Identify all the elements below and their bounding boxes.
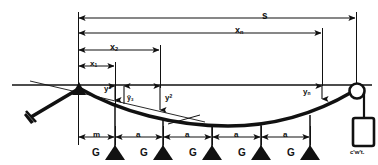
label-point-load-2: G	[140, 148, 148, 158]
right-pulley	[350, 84, 365, 99]
left-anchor-strut	[24, 88, 80, 124]
label-y2-sup: 2	[169, 94, 172, 99]
label-load-spacing-2: a	[185, 131, 189, 139]
label-xn-sub: n	[240, 29, 243, 35]
label-load-spacing-4: a	[283, 131, 287, 139]
label-distance-xn: xn	[235, 26, 243, 36]
label-distance-x2: x2	[110, 43, 118, 53]
label-counterweight: c'w't.	[350, 149, 365, 155]
counterweight-block	[353, 118, 374, 146]
catenary-cable	[79, 88, 352, 126]
label-point-load-3: G	[189, 148, 197, 158]
label-load-spacing-3: a	[234, 131, 238, 139]
label-sag-y3: ȳ3	[127, 94, 133, 102]
label-sag-y2: y2	[165, 94, 172, 102]
label-distance-x1: x1	[90, 60, 97, 69]
label-point-load-4: G	[238, 148, 246, 158]
sag-dimension-arrows	[115, 86, 322, 110]
label-y1-sup: 1	[108, 85, 111, 90]
left-support	[72, 82, 86, 95]
label-point-load-1: G	[92, 148, 100, 158]
label-offset-m: m	[93, 131, 100, 139]
label-point-load-5: G	[287, 148, 295, 158]
catenary-diagram-canvas	[0, 0, 378, 165]
label-sag-yn: yn	[303, 88, 310, 97]
witness-lines	[78, 12, 356, 140]
label-total-span: s	[262, 11, 268, 21]
label-sag-y1: y1	[104, 85, 111, 93]
label-x2-sub: 2	[115, 46, 118, 52]
label-yn-sub: n	[307, 91, 310, 96]
label-y3-sub: 3	[131, 97, 133, 102]
label-load-spacing-1: a	[136, 131, 140, 139]
bottom-witness-lines	[78, 126, 310, 145]
label-x1-sub: 1	[94, 63, 97, 68]
diagram-root: s xn x2 x1 y1 ȳ3 y2 yn m a a a a G G G G…	[0, 0, 378, 165]
